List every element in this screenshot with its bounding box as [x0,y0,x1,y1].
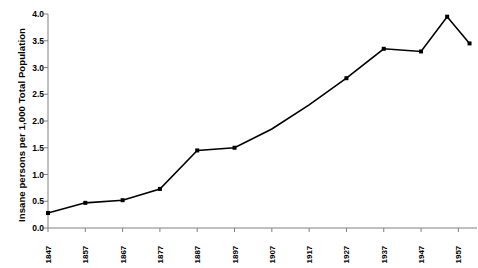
data-point-marker [83,201,87,205]
data-point-marker [344,76,348,80]
data-point-marker [468,41,472,45]
data-point-marker [382,47,386,51]
data-point-marker [158,187,162,191]
series-line [48,17,470,213]
data-point-marker [419,49,423,53]
data-series-markers [46,15,472,215]
plot-area [0,0,478,268]
chart-canvas: Insane persons per 1,000 Total Populatio… [0,0,478,268]
data-series-line [48,17,470,213]
data-point-marker [46,211,50,215]
data-point-marker [195,148,199,152]
data-point-marker [233,146,237,150]
data-point-marker [445,15,449,19]
data-point-marker [121,198,125,202]
axes [44,14,477,232]
